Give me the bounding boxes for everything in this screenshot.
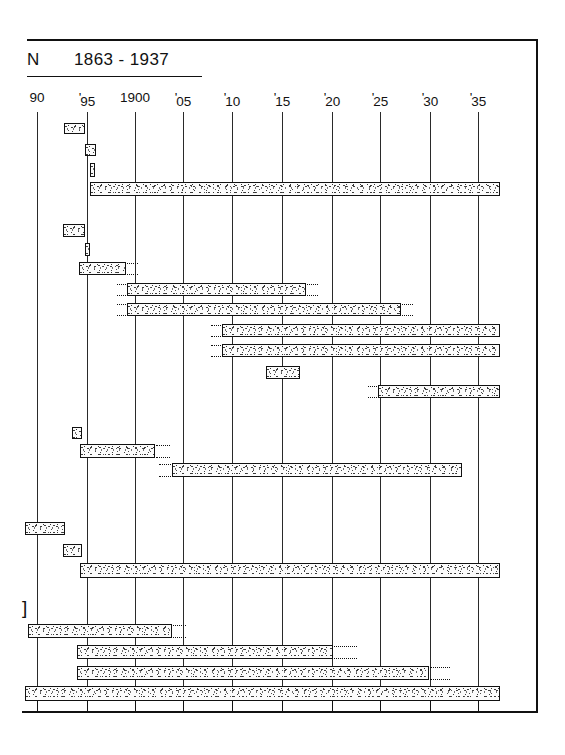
bar-continuation-dots-left [159, 464, 171, 465]
axis-gridline [135, 112, 136, 702]
bar-continuation-dots-right [173, 625, 186, 626]
axis-gridline [332, 112, 333, 702]
axis-gridline [478, 112, 479, 702]
bar-continuation-dots-left [211, 336, 221, 337]
timeline-bar [127, 303, 401, 316]
bracket-marker: ] [22, 598, 27, 617]
timeline-bar [90, 163, 95, 177]
axis-tick-stub [332, 700, 333, 711]
axis-tick-label: 90 [29, 90, 44, 105]
bar-continuation-dots-right [430, 667, 450, 668]
bar-continuation-dots-left [368, 386, 377, 387]
bar-continuation-dots-right [307, 295, 318, 296]
timeline-bar [172, 463, 462, 477]
timeline-bar [378, 385, 500, 398]
axis-tick-label: '05 [175, 90, 192, 109]
timeline-bar [79, 262, 126, 275]
axis-gridline [37, 112, 38, 702]
axis-tick-stub [282, 700, 283, 711]
timeline-bar [85, 243, 90, 256]
frame-top-rule [27, 39, 538, 41]
title-letter: N [27, 50, 40, 70]
bar-continuation-dots-right [402, 304, 413, 305]
timeline-bar [25, 522, 65, 535]
axis-tick-label: '35 [470, 90, 487, 109]
bar-continuation-dots-right [127, 263, 138, 264]
timeline-bar [90, 182, 500, 196]
bar-continuation-dots-left [117, 295, 126, 296]
timeline-bar [63, 224, 85, 237]
chart-title: N 1863 - 1937 [27, 50, 202, 77]
bar-continuation-dots-left [211, 356, 221, 357]
timeline-bar [80, 563, 500, 578]
frame-right-rule [536, 39, 538, 713]
title-year-range: 1863 - 1937 [74, 50, 169, 70]
frame-bottom-rule [22, 711, 538, 713]
axis-tick-label: '15 [274, 90, 291, 109]
timeline-bar [266, 366, 300, 379]
bar-continuation-dots-left [368, 397, 377, 398]
axis-gridline [232, 112, 233, 702]
axis-tick-stub [87, 700, 88, 711]
axis-gridline [183, 112, 184, 702]
axis-tick-stub [232, 700, 233, 711]
timeline-bar [222, 324, 500, 337]
timeline-bar [222, 344, 500, 357]
bar-continuation-dots-right [173, 637, 186, 638]
bar-continuation-dots-right [307, 284, 318, 285]
axis-tick-stub [430, 700, 431, 711]
bar-continuation-dots-left [117, 315, 126, 316]
bar-continuation-dots-right [402, 315, 413, 316]
bar-continuation-dots-left [117, 304, 126, 305]
axis-gridline [282, 112, 283, 702]
axis-tick-stub [380, 700, 381, 711]
bar-continuation-dots-right [156, 445, 170, 446]
bar-continuation-dots-right [127, 274, 138, 275]
bar-continuation-dots-right [334, 658, 357, 659]
axis-tick-label: '10 [224, 90, 241, 109]
timeline-bar [25, 686, 500, 701]
bar-continuation-dots-left [211, 325, 221, 326]
bar-continuation-dots-left [211, 345, 221, 346]
bar-continuation-dots-right [334, 646, 357, 647]
timeline-bar [80, 444, 155, 458]
axis-gridline [380, 112, 381, 702]
axis-tick-stub [135, 700, 136, 711]
axis-tick-stub [478, 700, 479, 711]
axis-tick-label: '20 [324, 90, 341, 109]
axis-tick-label: '25 [372, 90, 389, 109]
axis-tick-stub [183, 700, 184, 711]
axis-gridline [430, 112, 431, 702]
bar-continuation-dots-right [430, 679, 450, 680]
timeline-chart: N 1863 - 1937 90'951900'05'10'15'20'25'3… [0, 0, 565, 755]
timeline-bar [77, 666, 429, 680]
axis-tick-label: '95 [79, 90, 96, 109]
timeline-bar [64, 123, 85, 134]
timeline-bar [85, 144, 96, 156]
bar-continuation-dots-left [117, 284, 126, 285]
bar-continuation-dots-left [159, 476, 171, 477]
axis-tick-label: 1900 [120, 90, 150, 105]
bar-continuation-dots-right [156, 457, 170, 458]
axis-tick-stub [37, 700, 38, 711]
axis-gridline [87, 112, 88, 702]
timeline-bar [28, 624, 172, 638]
timeline-bar [77, 645, 333, 659]
axis-tick-label: '30 [422, 90, 439, 109]
timeline-bar [72, 427, 82, 439]
timeline-bar [127, 283, 306, 296]
timeline-bar [63, 544, 82, 557]
